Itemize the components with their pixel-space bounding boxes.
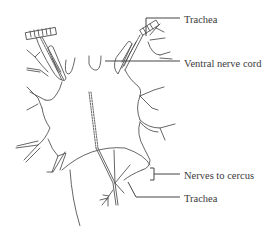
anatomy-diagram bbox=[0, 0, 266, 226]
label-trachea-bottom: Trachea bbox=[184, 193, 217, 205]
bracket-nerves-to-cercus bbox=[150, 168, 154, 180]
label-nerves-to-cercus: Nerves to cercus bbox=[184, 170, 254, 182]
label-trachea-top: Trachea bbox=[184, 14, 217, 26]
left-trachea-band bbox=[26, 27, 57, 39]
leader-trachea-bottom bbox=[128, 182, 180, 197]
label-ventral-nerve-cord: Ventral nerve cord bbox=[184, 58, 264, 70]
